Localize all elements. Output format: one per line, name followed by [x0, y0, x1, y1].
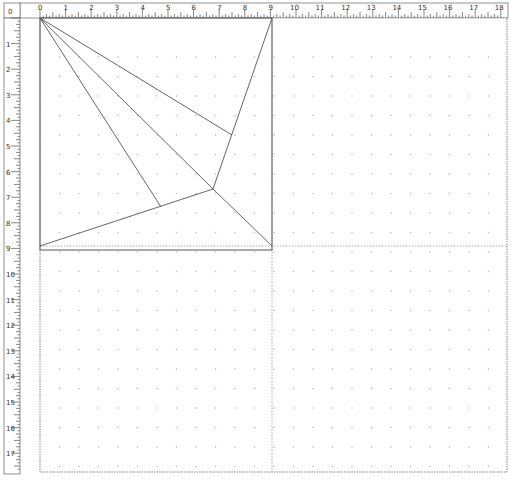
left-ruler-label: 17 [6, 450, 15, 458]
top-ruler-label: 1 [64, 4, 68, 12]
top-ruler-label: 10 [290, 4, 299, 12]
left-ruler-label: 11 [6, 297, 15, 305]
left-ruler-label: 9 [6, 245, 10, 253]
top-ruler-label: 0 [38, 4, 42, 12]
left-ruler-label: 8 [6, 220, 10, 228]
top-ruler-label: 2 [89, 4, 93, 12]
left-ruler-label: 13 [6, 348, 15, 356]
top-ruler: 00123456789101112131415161718 [4, 3, 508, 18]
left-ruler-label: 3 [6, 92, 10, 100]
top-ruler-label: 18 [495, 4, 504, 12]
left-ruler-label: 12 [6, 322, 15, 330]
left-ruler-label: 1 [6, 41, 10, 49]
top-ruler-label: 16 [444, 4, 453, 12]
page-area[interactable] [40, 18, 507, 472]
top-ruler-label: 13 [367, 4, 376, 12]
top-ruler-label: 3 [115, 4, 119, 12]
left-ruler-label: 2 [6, 66, 10, 74]
left-ruler-label: 15 [6, 399, 15, 407]
top-ruler-label: 14 [392, 4, 401, 12]
top-ruler-label: 11 [316, 4, 325, 12]
left-ruler-label: 5 [6, 143, 10, 151]
left-ruler-label: 7 [6, 194, 10, 202]
top-ruler-label: 12 [341, 4, 350, 12]
left-ruler-label: 10 [6, 271, 15, 279]
top-ruler-label: 17 [469, 4, 478, 12]
top-ruler-label: 5 [166, 4, 170, 12]
left-ruler-label: 14 [6, 373, 15, 381]
top-ruler-label: 9 [268, 4, 272, 12]
left-ruler: 1234567891011121314151617 [4, 18, 20, 474]
top-ruler-label: 8 [243, 4, 247, 12]
top-ruler-label: 15 [418, 4, 427, 12]
top-ruler-label: 6 [192, 4, 197, 12]
left-ruler-label: 16 [6, 425, 15, 433]
svg-text:0: 0 [8, 8, 12, 16]
drawing-canvas[interactable]: 00123456789101112131415161718 1234567891… [0, 0, 511, 485]
top-ruler-label: 4 [140, 4, 145, 12]
left-ruler-label: 4 [6, 117, 11, 125]
top-ruler-label: 7 [217, 4, 221, 12]
left-ruler-label: 6 [6, 169, 11, 177]
